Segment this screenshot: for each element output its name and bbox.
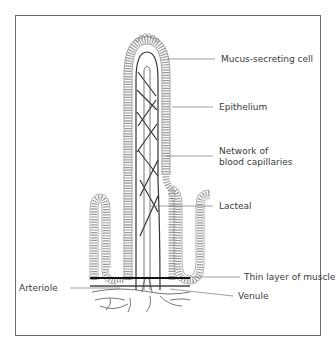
label-mucus-secreting-cell: Mucus-secreting cell — [221, 54, 313, 65]
label-capillaries-line1: Network of — [219, 146, 268, 157]
epithelium-layer — [124, 34, 172, 280]
label-arteriole: Arteriole — [19, 283, 58, 294]
label-lacteal: Lacteal — [219, 201, 252, 212]
label-epithelium: Epithelium — [219, 102, 267, 113]
capillary-network — [136, 52, 160, 290]
label-capillaries-line2: blood capillaries — [219, 157, 292, 168]
submucosa-vessels — [92, 289, 190, 312]
label-thin-layer-of-muscle: Thin layer of muscle — [244, 272, 335, 283]
villus-illustration — [0, 0, 335, 351]
label-venule: Venule — [238, 291, 268, 302]
